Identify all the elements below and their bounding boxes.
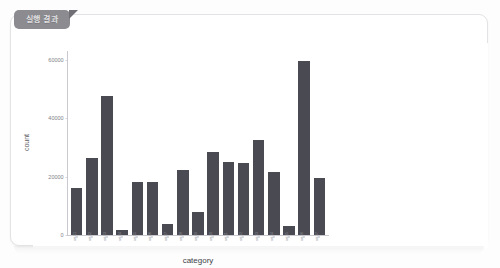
bar-slot — [236, 51, 251, 235]
bar-slot — [251, 51, 266, 235]
bar-slot — [130, 51, 145, 235]
bar[interactable] — [101, 96, 113, 235]
x-tick-label: cat-13 — [254, 232, 258, 241]
x-tick-label: cat-09 — [194, 232, 198, 241]
x-tick-label: cat-03 — [103, 232, 107, 241]
x-tick-label: cat-06 — [148, 232, 152, 241]
bar[interactable] — [223, 162, 235, 235]
bar[interactable] — [132, 182, 144, 235]
tab-pointer-icon — [69, 10, 78, 19]
bar-slot — [221, 51, 236, 235]
x-tick-label: cat-16 — [300, 232, 304, 241]
bar-slot — [297, 51, 312, 235]
bar-slot — [206, 51, 221, 235]
bar-slot — [145, 51, 160, 235]
bar-chart: count 0 -20000 -40000 -60000 - cat-01cat… — [33, 43, 488, 248]
bar[interactable] — [207, 152, 219, 235]
x-tick-label: cat-05 — [133, 232, 137, 241]
tab-label: 실행 결과 — [26, 16, 58, 24]
y-tick-label: 40000 - — [33, 115, 67, 121]
bar-slot — [84, 51, 99, 235]
x-tick-label: cat-10 — [209, 232, 213, 241]
bar-slot — [281, 51, 296, 235]
x-tick-mark — [137, 236, 138, 238]
x-tick-mark — [319, 236, 320, 238]
bar-slot — [190, 51, 205, 235]
y-tick-label: 60000 - — [33, 57, 67, 63]
screenshot-root: count 0 -20000 -40000 -60000 - cat-01cat… — [0, 0, 500, 268]
y-axis-line — [67, 51, 68, 235]
panel-bottom-shadow — [14, 246, 484, 254]
bar[interactable] — [253, 140, 265, 235]
bar[interactable] — [86, 158, 98, 235]
x-tick-mark — [304, 236, 305, 238]
x-tick-mark — [243, 236, 244, 238]
bar-slot — [160, 51, 175, 235]
bar[interactable] — [71, 188, 83, 235]
x-tick-label: cat-01 — [72, 232, 76, 241]
bar[interactable] — [177, 170, 189, 235]
bar-slot — [69, 51, 84, 235]
bar-slot — [115, 51, 130, 235]
x-tick-label: cat-17 — [315, 232, 319, 241]
x-tick-mark — [122, 236, 123, 238]
bar-series — [69, 51, 327, 235]
result-panel: count 0 -20000 -40000 -60000 - cat-01cat… — [10, 14, 488, 246]
x-tick-label: cat-15 — [285, 232, 289, 241]
x-tick-label: cat-02 — [87, 232, 91, 241]
bar-slot — [266, 51, 281, 235]
bar[interactable] — [238, 163, 250, 235]
x-tick-label: cat-08 — [178, 232, 182, 241]
x-tick-label: cat-11 — [224, 232, 228, 241]
y-axis-label: count — [23, 134, 30, 151]
y-tick-label: 20000 - — [33, 174, 67, 180]
bar[interactable] — [314, 178, 326, 235]
y-tick-label: 0 - — [33, 232, 67, 238]
bar-slot — [312, 51, 327, 235]
bar[interactable] — [298, 61, 310, 235]
x-axis-label: category — [67, 256, 329, 265]
tab-execution-result[interactable]: 실행 결과 — [14, 10, 70, 29]
x-tick-mark — [152, 236, 153, 238]
bar-slot — [99, 51, 114, 235]
bar[interactable] — [268, 172, 280, 235]
bar[interactable] — [147, 182, 159, 235]
x-tick-label: cat-07 — [163, 232, 167, 241]
x-tick-label: cat-14 — [269, 232, 273, 241]
x-tick-mark — [288, 236, 289, 238]
x-tick-label: cat-12 — [239, 232, 243, 241]
bar-slot — [175, 51, 190, 235]
x-tick-mark — [213, 236, 214, 238]
x-tick-mark — [228, 236, 229, 238]
x-tick-label: cat-04 — [118, 232, 122, 241]
